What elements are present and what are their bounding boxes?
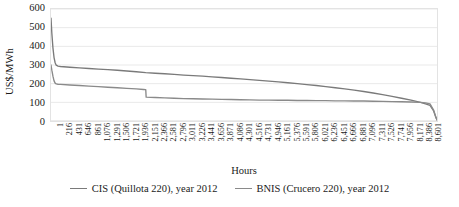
x-tick-label: 1,936 xyxy=(142,123,150,141)
x-tick-label: 6,236 xyxy=(331,123,339,141)
series-line-1 xyxy=(51,65,437,120)
x-tick-label: 1,076 xyxy=(104,123,112,141)
x-tick-label: 1,291 xyxy=(114,123,122,141)
x-tick-label: 3,871 xyxy=(227,123,235,141)
x-tick-label: 8,386 xyxy=(426,123,434,141)
x-tick-label: 431 xyxy=(76,123,84,135)
x-tick-label: 3,656 xyxy=(218,123,226,141)
plot-svg xyxy=(51,9,437,121)
x-tick-label: 1,506 xyxy=(123,123,131,141)
y-axis-tick-labels: 0100200300400500600 xyxy=(14,8,48,122)
legend-item-0[interactable]: CIS (Quillota 220), year 2012 xyxy=(70,183,218,194)
x-tick-label: 3,441 xyxy=(208,123,216,141)
x-axis-title: Hours xyxy=(50,165,438,176)
legend-label: BNIS (Crucero 220), year 2012 xyxy=(257,183,390,194)
x-tick-label: 4,731 xyxy=(265,123,273,141)
y-tick-label: 300 xyxy=(29,60,45,71)
y-tick-label: 100 xyxy=(29,98,45,109)
legend-line-swatch xyxy=(235,188,252,189)
x-tick-label: 4,946 xyxy=(275,123,283,141)
x-tick-label: 5,806 xyxy=(312,123,320,141)
x-axis-tick-labels: 12164316468611,0761,2911,5061,7211,9362,… xyxy=(50,123,438,167)
x-tick-label: 2,366 xyxy=(161,123,169,141)
x-tick-label: 2,151 xyxy=(152,123,160,141)
x-tick-label: 1,721 xyxy=(133,123,141,141)
y-tick-label: 200 xyxy=(29,79,45,90)
x-tick-label: 8,601 xyxy=(435,123,443,141)
x-tick-label: 6,881 xyxy=(360,123,368,141)
y-tick-label: 0 xyxy=(40,117,45,128)
x-tick-label: 7,526 xyxy=(388,123,396,141)
x-tick-label: 6,021 xyxy=(322,123,330,141)
legend-label: CIS (Quillota 220), year 2012 xyxy=(92,183,218,194)
x-tick-label: 7,311 xyxy=(379,123,387,141)
x-tick-label: 6,451 xyxy=(341,123,349,141)
x-tick-label: 3,226 xyxy=(199,123,207,141)
x-tick-label: 646 xyxy=(85,123,93,135)
x-tick-label: 5,376 xyxy=(294,123,302,141)
x-tick-label: 4,516 xyxy=(256,123,264,141)
x-tick-label: 8,171 xyxy=(417,123,425,141)
x-tick-label: 7,741 xyxy=(398,123,406,141)
y-tick-label: 400 xyxy=(29,41,45,52)
x-tick-label: 4,301 xyxy=(246,123,254,141)
series-line-0 xyxy=(51,18,437,120)
x-tick-label: 7,956 xyxy=(407,123,415,141)
plot-area xyxy=(50,8,438,122)
y-tick-label: 600 xyxy=(29,3,45,14)
price-duration-chart: US$/MWh 0100200300400500600 121643164686… xyxy=(0,0,459,207)
x-tick-label: 7,096 xyxy=(369,123,377,141)
x-tick-label: 4,086 xyxy=(237,123,245,141)
chart-legend: CIS (Quillota 220), year 2012BNIS (Cruce… xyxy=(0,183,459,194)
x-tick-label: 861 xyxy=(95,123,103,135)
legend-item-1[interactable]: BNIS (Crucero 220), year 2012 xyxy=(235,183,390,194)
x-tick-label: 5,161 xyxy=(284,123,292,141)
y-tick-label: 500 xyxy=(29,22,45,33)
x-tick-label: 3,011 xyxy=(189,123,197,141)
x-tick-label: 5,591 xyxy=(303,123,311,141)
x-tick-label: 216 xyxy=(66,123,74,135)
x-tick-label: 2,796 xyxy=(180,123,188,141)
legend-line-swatch xyxy=(70,188,87,189)
x-tick-label: 1 xyxy=(57,123,65,127)
x-tick-label: 2,581 xyxy=(170,123,178,141)
x-tick-label: 6,666 xyxy=(350,123,358,141)
